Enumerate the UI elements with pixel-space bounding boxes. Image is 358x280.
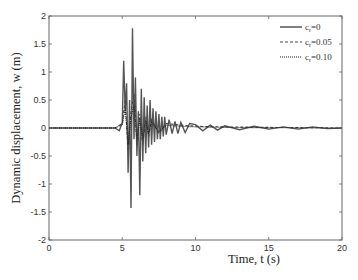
x-axis-title: Time, t (s) <box>228 252 280 266</box>
y-tick-label: 2 <box>41 11 46 21</box>
plot-series <box>49 28 342 208</box>
y-tick-label: -2 <box>38 235 46 245</box>
svg-text:cr=0.10: cr=0.10 <box>305 52 332 63</box>
y-tick-label: -0.5 <box>30 151 46 161</box>
y-tick-label: 1.5 <box>33 39 46 49</box>
axis-tick-labels: 05101520-2-1.5-1-0.500.511.52 <box>30 11 347 253</box>
legend-item-cr-0.05: cr=0.05 <box>280 37 332 48</box>
legend-item-cr-0: cr=0 <box>280 22 321 33</box>
series-line-solid <box>49 28 342 208</box>
svg-text:cr=0.05: cr=0.05 <box>305 37 332 48</box>
y-tick-label: 0.5 <box>33 95 46 105</box>
y-tick-label: 1 <box>41 67 46 77</box>
x-tick-label: 20 <box>337 243 347 253</box>
legend: cr=0 cr=0.05 cr=0.10 <box>280 22 332 63</box>
y-tick-label: 0 <box>41 123 46 133</box>
y-tick-label: -1.5 <box>30 207 46 217</box>
y-axis-title: Dynamic displacement, w (m) <box>9 52 23 203</box>
x-tick-label: 0 <box>46 243 51 253</box>
x-tick-label: 5 <box>120 243 125 253</box>
y-tick-label: -1 <box>38 179 46 189</box>
displacement-chart: 05101520-2-1.5-1-0.500.511.52 Time, t (s… <box>0 0 358 280</box>
legend-item-cr-0.10: cr=0.10 <box>280 52 332 63</box>
x-tick-label: 10 <box>190 243 200 253</box>
series-line-dashed <box>49 94 342 150</box>
svg-text:cr=0: cr=0 <box>305 22 321 33</box>
